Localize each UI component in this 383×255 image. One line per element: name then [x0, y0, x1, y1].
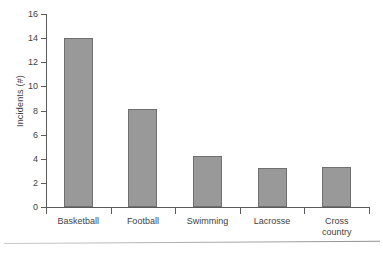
- y-axis-tick-label: 16: [14, 10, 38, 19]
- x-axis-line: [46, 207, 370, 208]
- y-axis-tick-label: 0: [14, 203, 38, 212]
- x-axis-tick: [175, 208, 176, 214]
- bar-chart-figure: Incidents (#) 0246810121416 BasketballFo…: [0, 0, 383, 255]
- y-axis-tick-label: 4: [14, 155, 38, 164]
- plot-area: [46, 14, 369, 207]
- x-axis-category-label: Cross country: [304, 216, 369, 238]
- bar: [128, 109, 157, 207]
- bar: [258, 168, 287, 207]
- y-axis-tick-label: 8: [14, 107, 38, 116]
- bottom-divider: [4, 241, 380, 244]
- x-axis-category-label: Football: [111, 216, 176, 227]
- x-axis-tick: [46, 208, 47, 214]
- y-axis-tick-label: 10: [14, 82, 38, 91]
- x-axis-tick: [111, 208, 112, 214]
- y-axis-tick-label: 14: [14, 34, 38, 43]
- x-axis-tick: [240, 208, 241, 214]
- x-axis-category-label: Lacrosse: [240, 216, 305, 227]
- bar: [64, 38, 93, 207]
- x-axis-tick: [304, 208, 305, 214]
- x-axis-tick: [369, 208, 370, 214]
- y-axis-tick-label: 6: [14, 131, 38, 140]
- bar: [193, 156, 222, 207]
- y-axis-tick-label: 2: [14, 179, 38, 188]
- bar: [322, 167, 351, 207]
- y-axis-tick-label: 12: [14, 58, 38, 67]
- x-axis-category-label: Basketball: [46, 216, 111, 227]
- x-axis-category-label: Swimming: [175, 216, 240, 227]
